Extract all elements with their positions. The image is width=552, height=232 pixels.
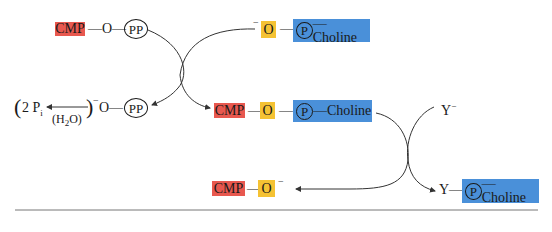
o-label: O xyxy=(262,104,272,118)
paren-open: ( xyxy=(14,96,21,118)
arrow-to-cdp-choline xyxy=(180,29,255,108)
cmp-box-row3: CMP xyxy=(212,181,245,196)
pi-sub: i xyxy=(40,108,43,118)
choline-label: —Choline xyxy=(313,104,371,118)
cmp-label: CMP xyxy=(214,182,244,196)
cmp-box-row1: CMP xyxy=(55,22,85,36)
phosphocholine-box-row1: P —Choline xyxy=(293,19,370,42)
charge: − xyxy=(93,96,99,106)
bond-o: O— xyxy=(99,101,123,115)
phosphate-circle: P xyxy=(465,183,482,200)
cmp-label: CMP xyxy=(215,104,245,118)
pp-label: PP xyxy=(129,102,143,115)
dash: — xyxy=(280,22,294,36)
p-label: P xyxy=(301,24,308,37)
dash: — xyxy=(279,104,293,118)
oxygen-box-row1: O xyxy=(261,21,276,38)
y-charge: − xyxy=(451,101,456,111)
o-label: O xyxy=(263,23,273,37)
p-label: P xyxy=(301,105,308,118)
pp-label: PP xyxy=(129,23,143,36)
choline-label: —Choline xyxy=(482,177,539,205)
cmp-box-row2: CMP xyxy=(214,103,245,118)
o-label: O xyxy=(261,182,271,196)
p-label: P xyxy=(470,185,477,198)
oxygen-box-row3: O xyxy=(258,180,275,197)
water-label: (H2O) xyxy=(52,113,82,128)
phosphate-circle: P xyxy=(296,22,313,39)
arrow-to-cmp xyxy=(296,113,408,189)
o-charge: − xyxy=(253,18,259,28)
o-charge: − xyxy=(278,177,284,187)
arrow-pp-release xyxy=(148,30,184,105)
water-text: (H xyxy=(52,112,65,126)
phosphocholine-box-row2: P —Choline xyxy=(293,100,372,122)
pyrophosphate-circle: PP xyxy=(124,19,148,39)
oxygen-box-row2: O xyxy=(260,102,275,119)
phosphocholine-box-row3: P —Choline xyxy=(462,179,539,203)
y-label: Y— xyxy=(439,183,463,197)
pi-label: 2 Pi xyxy=(22,101,43,118)
water-end: O) xyxy=(69,112,82,126)
pi-text: 2 P xyxy=(22,100,40,115)
arrow-to-y-phosphocholine xyxy=(407,107,435,191)
bond-o: —O— xyxy=(88,22,126,36)
cmp-label: CMP xyxy=(55,22,85,36)
pyrophosphate-circle: PP xyxy=(124,98,148,118)
y-text: Y xyxy=(441,103,451,118)
y-nucleophile: Y− xyxy=(441,102,456,118)
phosphate-circle: P xyxy=(296,103,313,120)
choline-label: —Choline xyxy=(313,17,370,45)
